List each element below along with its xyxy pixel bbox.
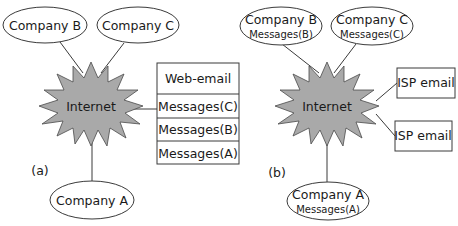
company-b-messages: Messages(B) — [249, 29, 313, 40]
web-email-row: Messages(C) — [158, 99, 238, 114]
internet-cloud-a: Internet — [39, 62, 143, 146]
isp-email-label: ISP email — [397, 75, 455, 90]
web-email-row: Messages(A) — [158, 146, 238, 161]
company-a-node-b: Company A Messages(A) — [287, 182, 369, 220]
company-a-label: Company A — [292, 187, 364, 202]
panel-a-label: (a) — [31, 163, 48, 178]
company-c-messages: Messages(C) — [340, 29, 404, 40]
company-c-label: Company C — [336, 12, 408, 27]
company-c-label: Company C — [102, 18, 174, 33]
connector-b-internet-a — [60, 42, 83, 73]
web-email-header: Web-email — [165, 71, 231, 86]
company-b-label: Company B — [9, 18, 81, 33]
isp-email-box-1: ISP email — [397, 68, 455, 98]
company-c-node-a: Company C — [97, 7, 179, 43]
connector-internet-isp2-b — [376, 114, 395, 136]
connector-b-internet-b — [282, 44, 319, 73]
company-a-messages: Messages(A) — [296, 204, 360, 215]
company-a-label: Company A — [56, 193, 128, 208]
panel-a: Company B Company C Internet Web-email M… — [3, 7, 239, 219]
internet-label: Internet — [66, 99, 116, 114]
connector-internet-isp1-b — [376, 83, 397, 101]
internet-cloud-b: Internet — [275, 62, 379, 146]
isp-email-box-2: ISP email — [394, 121, 452, 151]
company-b-label: Company B — [245, 12, 317, 27]
connector-c-internet-a — [101, 43, 124, 73]
connector-c-internet-b — [334, 44, 356, 73]
company-c-node-b: Company C Messages(C) — [331, 7, 413, 45]
panel-b: Company B Messages(B) Company C Messages… — [240, 7, 455, 220]
panel-b-label: (b) — [268, 165, 286, 180]
internet-label: Internet — [302, 99, 352, 114]
company-a-node-a: Company A — [50, 181, 134, 219]
email-architecture-diagram: Company B Company C Internet Web-email M… — [0, 0, 458, 226]
web-email-box: Web-email Messages(C) Messages(B) Messag… — [157, 63, 239, 164]
isp-email-label: ISP email — [394, 128, 452, 143]
web-email-row: Messages(B) — [158, 122, 238, 137]
company-b-node-a: Company B — [3, 7, 87, 43]
company-b-node-b: Company B Messages(B) — [240, 7, 322, 45]
